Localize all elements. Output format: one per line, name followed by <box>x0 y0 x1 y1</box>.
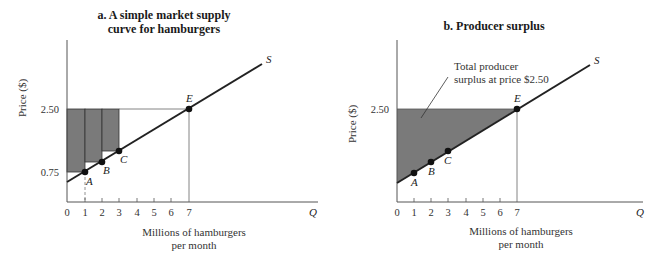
supply-curve-label: S <box>266 53 272 65</box>
point-e-label: E <box>185 92 193 104</box>
svg-text:5: 5 <box>151 207 156 218</box>
surplus-rect-2 <box>85 109 102 162</box>
panel-b-title: b. Producer surplus <box>443 19 545 33</box>
y-tick-2-50: 2.50 <box>371 104 389 115</box>
surplus-rect-3 <box>102 109 119 151</box>
x-axis-label-line2: per month <box>499 238 544 250</box>
svg-text:3: 3 <box>116 207 121 218</box>
point-c-label: C <box>444 154 452 166</box>
x-axis-label-line1: Millions of hamburgers <box>469 225 573 237</box>
x-axis-label-line2: per month <box>172 239 217 251</box>
point-e <box>514 106 521 113</box>
panel-a-title-line2: curve for hamburgers <box>108 22 221 36</box>
x-tick-labels: 0 1 2 3 4 5 6 7 <box>394 207 519 218</box>
y-tick-0-75: 0.75 <box>41 167 59 178</box>
supply-curve-label: S <box>594 54 600 66</box>
svg-text:0: 0 <box>394 207 399 218</box>
point-b-label: B <box>428 165 435 177</box>
y-axis-label: Price ($) <box>346 105 359 144</box>
point-e-label: E <box>513 92 521 104</box>
point-a-label: A <box>410 176 418 188</box>
svg-text:5: 5 <box>480 207 485 218</box>
svg-text:6: 6 <box>497 207 502 218</box>
svg-text:2: 2 <box>99 207 104 218</box>
q-axis-label: Q <box>636 206 644 218</box>
figure: a. A simple market supply curve for hamb… <box>0 0 661 267</box>
svg-text:1: 1 <box>82 207 87 218</box>
annotation-line1: Total producer <box>454 60 519 72</box>
svg-text:3: 3 <box>445 207 450 218</box>
point-c-label: C <box>120 153 128 165</box>
svg-text:6: 6 <box>168 207 173 218</box>
point-b-label: B <box>103 164 110 176</box>
y-tick-2-50: 2.50 <box>41 104 59 115</box>
x-axis-ticks <box>85 198 171 202</box>
svg-text:0: 0 <box>64 207 69 218</box>
surplus-rect-1 <box>67 109 85 172</box>
panel-a: a. A simple market supply curve for hamb… <box>16 8 318 251</box>
x-axis-ticks <box>414 198 500 202</box>
svg-text:4: 4 <box>134 207 140 218</box>
svg-text:7: 7 <box>514 207 519 218</box>
annotation-line2: surplus at price $2.50 <box>454 73 549 85</box>
svg-text:7: 7 <box>186 207 191 218</box>
svg-text:1: 1 <box>411 207 416 218</box>
panel-b: b. Producer surplus Total producer surpl… <box>346 19 644 250</box>
q-axis-label: Q <box>309 206 317 218</box>
y-axis-label: Price ($) <box>16 79 29 118</box>
svg-text:2: 2 <box>428 207 433 218</box>
x-axis-label-line1: Millions of hamburgers <box>142 226 246 238</box>
panel-a-title-line1: a. A simple market supply <box>97 8 230 22</box>
svg-text:4: 4 <box>463 207 469 218</box>
point-a-label: A <box>85 175 93 187</box>
point-e <box>186 106 193 113</box>
x-tick-labels: 0 1 2 3 4 5 6 7 <box>64 207 191 218</box>
